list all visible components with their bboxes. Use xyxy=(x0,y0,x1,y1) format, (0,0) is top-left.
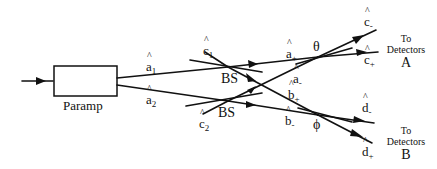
a-minus-sub: - xyxy=(299,78,302,88)
c2-sub: 2 xyxy=(205,123,210,133)
arrow-b-plus-icon xyxy=(246,73,256,82)
arrow-c-minus-icon xyxy=(352,35,364,44)
arrow-d-plus-icon xyxy=(350,129,363,137)
detectors-a-letter: A xyxy=(376,55,436,70)
label-c-plus: c+ xyxy=(364,53,375,69)
label-a-plus: a+ xyxy=(286,47,297,63)
beam-a-minus xyxy=(228,57,318,101)
b-plus-base: b xyxy=(288,87,295,102)
detectors-b-label: To Detectors B xyxy=(376,125,436,162)
detectors-b-line2: Detectors xyxy=(376,136,436,147)
a-plus-base: a xyxy=(286,46,292,61)
a1-base: a xyxy=(146,59,152,74)
c1-sub: 1 xyxy=(209,50,214,60)
beam-a2 xyxy=(117,85,228,101)
arrow-a-plus-icon xyxy=(248,60,258,68)
a1-sub: 1 xyxy=(152,66,157,76)
theta-label: θ xyxy=(313,40,320,54)
label-d-plus: d+ xyxy=(362,145,374,161)
beam-a1 xyxy=(117,67,228,78)
label-c2: c2 xyxy=(199,117,209,133)
c2-base: c xyxy=(199,116,205,131)
label-a2: a2 xyxy=(146,93,156,109)
beamsplitter-2-label: BS xyxy=(218,106,235,120)
c-minus-base: c xyxy=(364,14,370,29)
b-minus-base: b xyxy=(285,113,292,128)
phi-label: ϕ xyxy=(313,118,320,132)
d-plus-base: d xyxy=(362,144,369,159)
detectors-b-line1: To xyxy=(376,125,436,136)
b-plus-sub: + xyxy=(295,94,300,104)
beamsplitter-1-label: BS xyxy=(221,72,238,86)
label-d-minus: d- xyxy=(362,101,372,117)
a2-base: a xyxy=(146,92,152,107)
c-minus-sub: - xyxy=(370,21,373,31)
label-b-minus: b- xyxy=(285,114,295,130)
arrow-a-minus-icon xyxy=(247,86,256,94)
paramp-box xyxy=(54,66,117,96)
detectors-a-line1: To xyxy=(376,33,436,44)
d-plus-sub: + xyxy=(369,151,374,161)
detectors-a-label: To Detectors A xyxy=(376,33,436,70)
input-arrow-icon xyxy=(36,77,46,85)
a2-sub: 2 xyxy=(152,99,157,109)
d-minus-base: d xyxy=(362,100,369,115)
c1-base: c xyxy=(203,43,209,58)
label-a-minus: a- xyxy=(293,72,302,88)
label-a1: a1 xyxy=(146,60,156,76)
label-c1: c1 xyxy=(203,44,213,60)
detectors-a-line2: Detectors xyxy=(376,44,436,55)
detectors-b-letter: B xyxy=(376,147,436,162)
arrow-b-minus-icon xyxy=(246,101,256,108)
c-plus-sub: + xyxy=(370,59,375,69)
phi-plate xyxy=(298,108,352,122)
paramp-label: Paramp xyxy=(63,99,103,112)
label-b-plus: b+ xyxy=(288,88,300,104)
label-c-minus: c- xyxy=(364,15,373,31)
c-plus-base: c xyxy=(364,52,370,67)
